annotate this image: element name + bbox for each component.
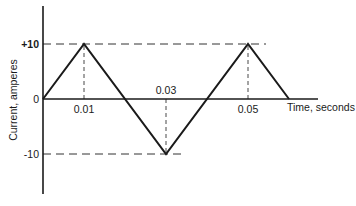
y-tick-label: +10	[21, 38, 39, 50]
x-tick-label: 0.05	[238, 103, 259, 115]
y-tick-label: -10	[24, 148, 39, 160]
current-vs-time-chart: 0.010.030.05+100-10 Time, seconds Curren…	[0, 0, 356, 206]
x-axis-title: Time, seconds	[287, 101, 355, 113]
axes	[43, 6, 318, 194]
x-tick-label: 0.01	[74, 103, 95, 115]
y-axis-title: Current, amperes	[7, 59, 19, 141]
x-tick-label: 0.03	[156, 84, 177, 96]
y-tick-label: 0	[33, 93, 39, 105]
